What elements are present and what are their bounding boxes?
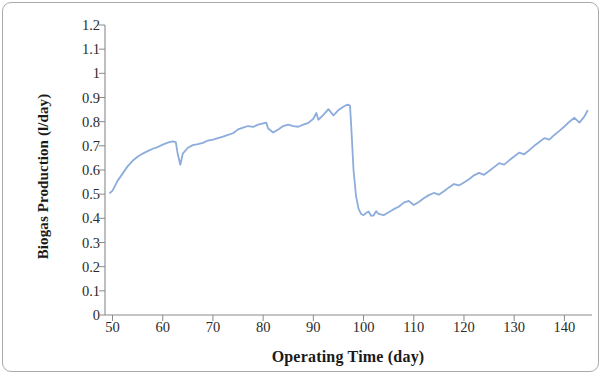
biogas-production-series-line [110, 105, 587, 216]
x-axis-ticks [113, 315, 565, 321]
y-axis-ticks [99, 25, 105, 315]
plot-canvas [0, 0, 605, 378]
biogas-production-line-chart: Biogas Production (l/day) Operating Time… [0, 0, 605, 378]
axes-lines [105, 25, 592, 315]
